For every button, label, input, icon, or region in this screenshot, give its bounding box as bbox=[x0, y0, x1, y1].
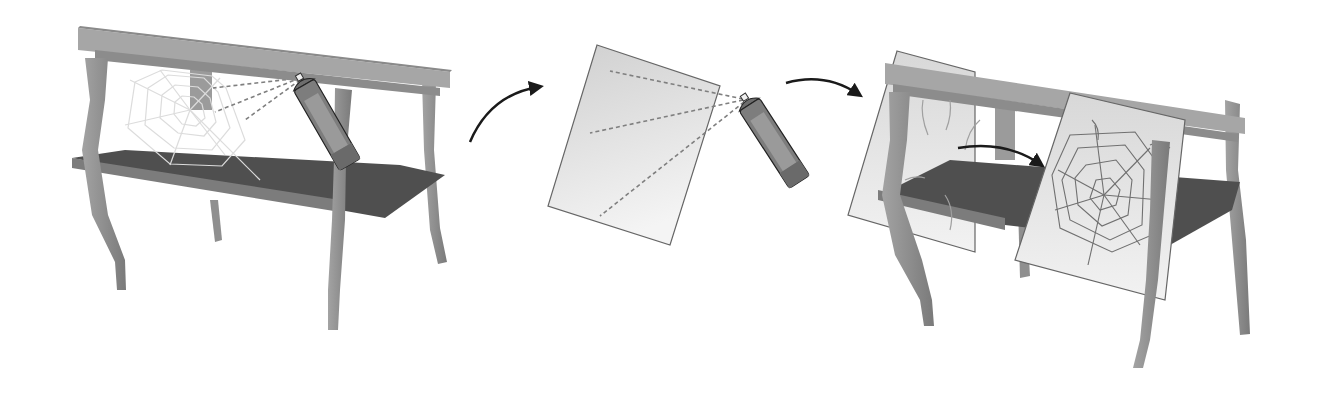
curved-arrow-icon bbox=[470, 87, 538, 142]
figure-canvas bbox=[0, 0, 1317, 394]
table-shelf bbox=[72, 150, 445, 218]
spray-lines bbox=[213, 78, 300, 120]
instruction-figure bbox=[0, 0, 1317, 394]
step-3-capture-web bbox=[848, 51, 1250, 368]
curved-arrow-icon bbox=[786, 79, 858, 94]
paper-sheet bbox=[548, 45, 720, 245]
step-1-table-with-web bbox=[72, 26, 452, 330]
step-2-paper-spray bbox=[548, 45, 810, 245]
table-leg-back-left bbox=[210, 200, 222, 242]
spray-can-step-2 bbox=[733, 88, 810, 188]
